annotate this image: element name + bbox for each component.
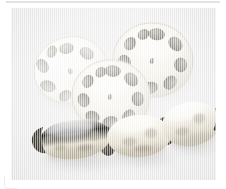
slice-middle-label: Cross-section slice, front centre	[0, 0, 1, 1]
segment-left-label: Left segment	[0, 0, 1, 1]
subject-common-name: Lotus root	[0, 0, 1, 1]
tip-right-label: Cut dark tip, right end	[0, 0, 1, 1]
joint-left-label: Joint between left and middle segment	[0, 0, 1, 1]
joint-right-label: Joint between middle and right segment	[0, 0, 1, 1]
slice-right-label: Cross-section slice, upper right	[0, 0, 1, 1]
slice-left-label: Cross-section slice, upper left	[0, 0, 1, 1]
image-alt-text: Three lotus root cross-section slices ab…	[0, 0, 1, 1]
top-divider-rule	[6, 1, 220, 3]
segment-right-label: Right segment	[0, 0, 1, 1]
subject-alternate-name: Renkon	[0, 0, 1, 1]
lotus-root-illustration	[11, 8, 216, 180]
photo-frame: Lotus root (renkon) Three lotus root cro…	[0, 0, 226, 189]
segment-middle-label: Middle segment	[0, 0, 1, 1]
photograph-canvas	[11, 8, 216, 180]
rhizome-label: Whole lotus root, three segments	[0, 0, 1, 1]
tip-left-label: Cut dark tip, left end	[0, 0, 1, 1]
image-title: Lotus root (renkon)	[0, 0, 1, 1]
